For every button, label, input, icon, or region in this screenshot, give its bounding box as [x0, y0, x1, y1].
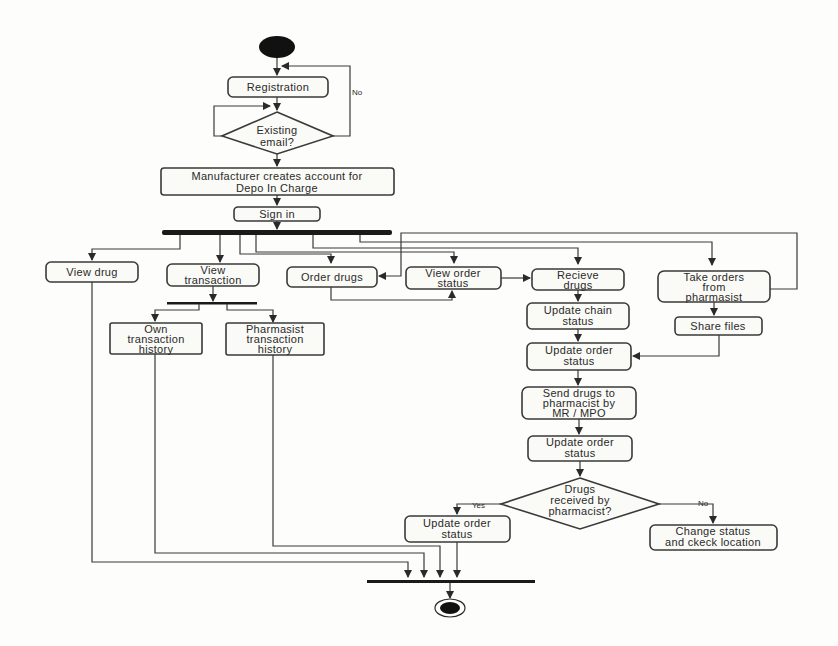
svg-text:MR / MPO: MR / MPO	[552, 407, 606, 419]
svg-text:history: history	[139, 343, 174, 355]
svg-text:Existing: Existing	[257, 124, 298, 136]
node-pharmasist-transaction-history: Pharmasist transaction history	[226, 323, 324, 355]
svg-text:Registration: Registration	[247, 81, 309, 93]
svg-text:Manufacturer creates account f: Manufacturer creates account for	[191, 170, 362, 182]
node-view-drug: View drug	[46, 262, 138, 282]
svg-text:status: status	[441, 528, 472, 540]
svg-text:status: status	[564, 447, 595, 459]
svg-text:Share files: Share files	[690, 320, 745, 332]
svg-text:email?: email?	[260, 136, 294, 148]
node-take-orders-from-pharmasist: Take orders from pharmasist	[658, 271, 770, 303]
join-bar	[367, 580, 535, 583]
svg-text:pharmasist: pharmasist	[686, 291, 743, 303]
node-recieve-drugs: Recieve drugs	[532, 269, 624, 291]
edge-label-no: No	[698, 499, 709, 508]
node-share-files: Share files	[675, 317, 762, 335]
node-order-drugs: Order drugs	[287, 267, 377, 287]
svg-text:drugs: drugs	[563, 279, 592, 291]
svg-text:status: status	[437, 277, 468, 289]
edge-label-no-registration: No	[352, 88, 363, 97]
decision-existing-email: Existing email?	[222, 112, 333, 154]
node-update-order-status-2: Update order status	[528, 436, 632, 461]
svg-text:history: history	[258, 343, 293, 355]
fork-bar-transaction	[167, 302, 257, 305]
svg-text:View drug: View drug	[66, 266, 117, 278]
svg-text:status: status	[562, 315, 593, 327]
node-manufacturer-creates-account: Manufacturer creates account for Depo In…	[161, 168, 394, 195]
edge-label-yes: Yes	[472, 501, 485, 510]
svg-text:Depo In Charge: Depo In Charge	[236, 182, 318, 194]
node-send-drugs-to-pharmacist: Send drugs to pharmacist by MR / MPO	[522, 387, 636, 419]
svg-text:transaction: transaction	[184, 274, 241, 286]
node-view-transaction: View transaction	[167, 264, 259, 286]
svg-text:status: status	[563, 355, 594, 367]
fork-bar-main	[162, 230, 392, 235]
node-change-status-check-location: Change status and ckeck location	[650, 525, 777, 550]
node-own-transaction-history: Own transaction history	[110, 323, 202, 355]
svg-text:Sign in: Sign in	[259, 208, 295, 220]
node-update-order-status-3: Update order status	[405, 516, 510, 542]
end-node	[435, 599, 465, 617]
activity-diagram: Registration Existing email? No Manufact…	[0, 0, 838, 646]
decision-drugs-received: Drugs received by pharmacist?	[501, 478, 659, 529]
node-update-order-status-1: Update order status	[527, 343, 631, 370]
start-node	[259, 36, 295, 58]
node-registration: Registration	[228, 77, 328, 97]
node-view-order-status: View order status	[406, 267, 501, 289]
node-sign-in: Sign in	[234, 207, 320, 221]
svg-text:Order drugs: Order drugs	[301, 271, 363, 283]
svg-text:and ckeck location: and ckeck location	[665, 536, 761, 548]
svg-text:pharmacist?: pharmacist?	[548, 505, 611, 517]
node-update-chain-status: Update chain status	[527, 303, 629, 329]
